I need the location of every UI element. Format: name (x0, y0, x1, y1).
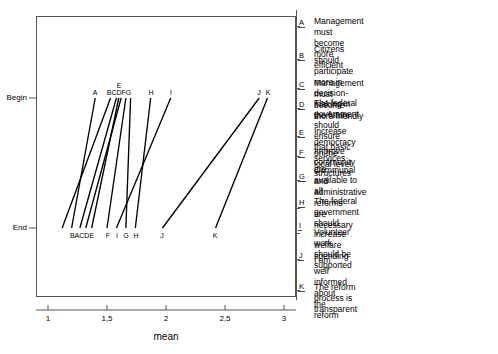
y-label-begin: Begin (0, 93, 27, 102)
chart-canvas: Begin End 1 1,5 2 2,5 3 mean A E BCDFG H… (0, 0, 498, 354)
legend-rail (296, 10, 297, 300)
y-label-end: End (0, 223, 27, 232)
bottom-label-K: K (205, 231, 225, 240)
x-tick-3: 3 (274, 314, 294, 323)
plot-area-frame (36, 16, 296, 297)
x-tick-1-5: 1,5 (97, 314, 117, 323)
legend-key-I: I (298, 221, 302, 231)
legend-key-D: D (298, 100, 305, 110)
legend-key-A: A (298, 18, 305, 28)
legend-key-E: E (298, 128, 305, 138)
bottom-label-BACDE: BACDE (63, 231, 101, 240)
legend-key-F: F (298, 148, 305, 158)
bottom-label-J: J (152, 231, 172, 240)
top-label-BCDFG: BCDFG (100, 88, 138, 97)
top-label-H: H (141, 88, 161, 97)
legend-key-C: C (298, 80, 305, 90)
x-tick-2-5: 2,5 (215, 314, 235, 323)
top-label-I: I (161, 88, 181, 97)
legend-key-J: J (298, 251, 304, 261)
legend-key-H: H (298, 198, 305, 208)
legend-key-B: B (298, 51, 305, 61)
bottom-label-H: H (126, 231, 146, 240)
legend-key-G: G (298, 172, 306, 182)
x-tick-1: 1 (38, 314, 58, 323)
legend-tick-I (296, 233, 300, 234)
legend: A Management must become more efficient … (296, 10, 498, 300)
legend-tick-H (296, 208, 300, 209)
legend-text-K: The reform process is transparent (314, 282, 357, 315)
x-axis-title: mean (36, 331, 296, 342)
top-label-K: K (258, 88, 278, 97)
legend-key-K: K (298, 282, 305, 292)
x-tick-2: 2 (156, 314, 176, 323)
